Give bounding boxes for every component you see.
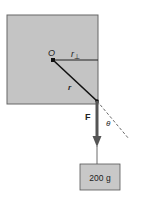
force-arrow-head bbox=[93, 136, 102, 147]
angle-label: θ bbox=[106, 119, 111, 128]
line-of-action-dashed bbox=[97, 101, 129, 139]
torque-diagram: O r⊥ r F θ 200 g bbox=[0, 0, 141, 202]
pivot-point bbox=[51, 58, 55, 62]
force-label: F bbox=[85, 112, 91, 122]
pivot-label: O bbox=[48, 48, 55, 58]
mass-label: 200 g bbox=[89, 173, 111, 183]
